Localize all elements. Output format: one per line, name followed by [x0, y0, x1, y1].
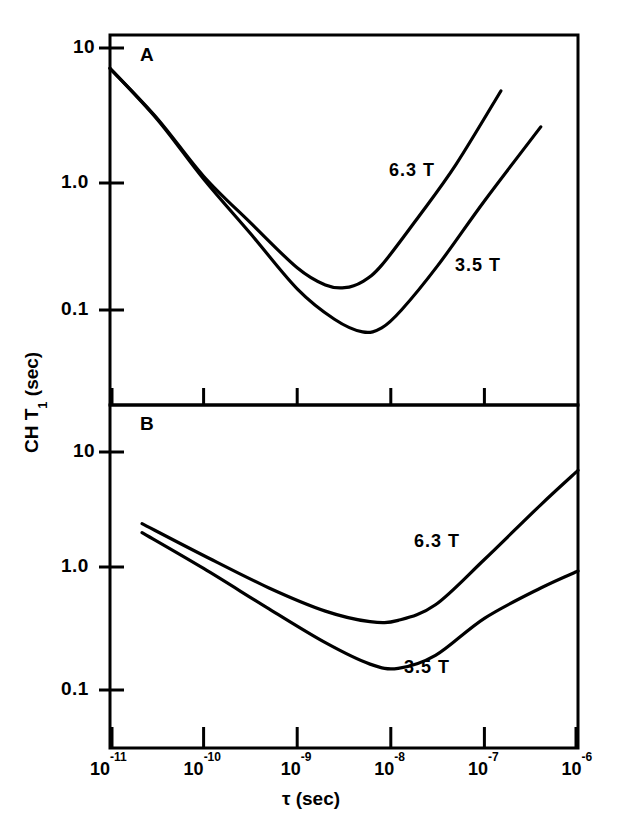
x-axis-title: τ (sec) — [0, 788, 622, 810]
curve-panel-a-series-1 — [110, 68, 541, 332]
curve-panel-a-series-0 — [110, 68, 501, 288]
x-tick-label-4: 10-7 — [468, 757, 499, 780]
curve-panel-b-series-1 — [142, 533, 578, 669]
x-tick-label-0: 10-11 — [90, 757, 127, 780]
y-tick-label-a-1: 1.0 — [61, 171, 89, 193]
y-tick-label-b-2: 0.1 — [61, 678, 89, 700]
data-curves — [110, 68, 578, 669]
y-tick-label-a-0: 10 — [73, 36, 95, 58]
axes-frames — [110, 35, 578, 748]
x-tick-label-3: 10-8 — [374, 757, 405, 780]
series-annotation-b-63t: 6.3 T — [414, 531, 460, 552]
panel-a-frame — [110, 35, 578, 405]
x-tick-label-5: 10-6 — [562, 757, 593, 780]
y-axis-title-subscript: 1 — [34, 401, 49, 408]
plot-canvas — [0, 0, 622, 833]
y-tick-label-a-2: 0.1 — [61, 298, 89, 320]
tick-marks — [99, 48, 576, 748]
curve-panel-b-series-0 — [142, 470, 578, 622]
figure-container: A B 6.3 T 3.5 T 6.3 T 3.5 T CH T1 (sec) … — [0, 0, 622, 833]
y-axis-title: CH T1 (sec) — [21, 307, 46, 497]
y-tick-label-b-0: 10 — [73, 440, 95, 462]
panel-b-frame — [110, 405, 578, 748]
x-tick-label-1: 10-10 — [184, 757, 221, 780]
y-axis-title-main: CH T — [21, 409, 42, 453]
panel-label-b: B — [140, 413, 154, 435]
panel-label-a: A — [140, 44, 154, 66]
y-tick-label-b-1: 1.0 — [61, 555, 89, 577]
series-annotation-b-35t: 3.5 T — [404, 657, 450, 678]
series-annotation-a-35t: 3.5 T — [455, 255, 501, 276]
series-annotation-a-63t: 6.3 T — [389, 160, 435, 181]
x-tick-label-2: 10-9 — [281, 757, 312, 780]
y-axis-title-unit: (sec) — [21, 352, 42, 402]
